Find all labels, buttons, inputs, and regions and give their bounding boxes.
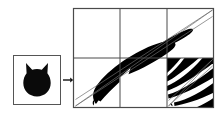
transform-arrow <box>63 77 73 82</box>
source-panel-group <box>14 56 61 105</box>
figure-root <box>0 0 221 120</box>
target-panel-group <box>74 9 215 109</box>
transform-arrow-head <box>70 77 73 82</box>
figure-canvas <box>0 0 221 120</box>
